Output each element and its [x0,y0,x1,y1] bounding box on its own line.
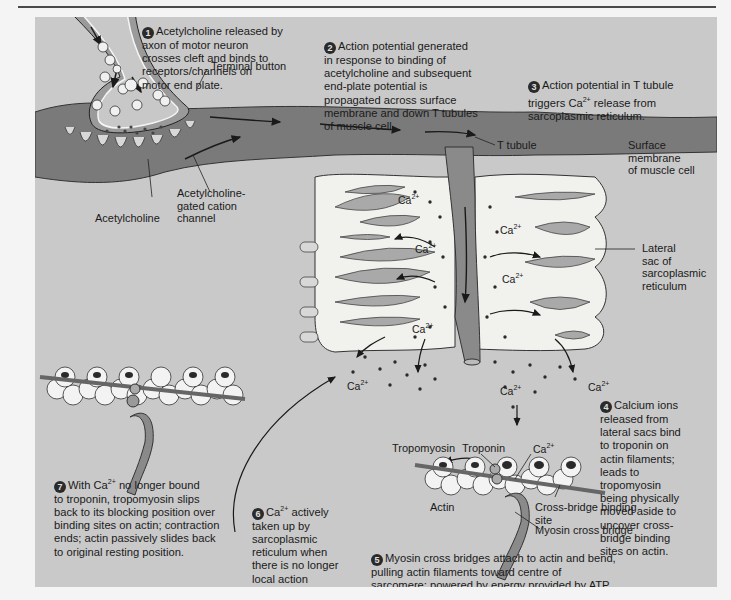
step-3-superscript: 2+ [583,96,591,103]
label-terminal-button: Terminal button [211,60,286,73]
label-tropomyosin: Tropomyosin [392,442,455,455]
step-5: 5Myosin cross bridges attach to actin an… [371,552,616,587]
calcium-label: Ca2+ [415,242,436,255]
calcium-label: Ca2+ [588,380,609,393]
step-7: 7With Ca2+ no longer bound to troponin, … [54,475,219,559]
step-7-superscript: 2+ [108,478,116,485]
label-troponin: Troponin [462,442,505,455]
step-2: 2Action potential generated in response … [324,40,478,133]
step-7-text-a: With Ca [68,479,108,491]
diagram-panel: 1Acetylcholine released by axon of motor… [35,17,717,587]
step-1-badge: 1 [142,27,154,39]
label-acetylcholine: Acetylcholine [95,212,160,225]
calcium-label: Ca2+ [502,272,523,285]
step-2-text: Action potential generated in response t… [324,40,478,132]
label-cross-bridge-site: Cross-bridge binding site [535,501,637,526]
step-2-badge: 2 [324,42,336,54]
label-lateral-sac: Lateral sac of sarcoplasmic reticulum [642,242,706,292]
calcium-label: Ca2+ [533,442,554,455]
label-surface-membrane: Surface membrane of muscle cell [628,139,717,177]
step-6-text-a: Ca [266,506,280,518]
label-actin: Actin [430,501,454,514]
step-4-badge: 4 [600,401,612,413]
step-7-badge: 7 [54,481,66,493]
step-6-text-b: actively taken up by sarcoplasmic reticu… [252,506,338,587]
label-myosin-cross-bridge: Myosin cross bridge [535,524,633,537]
step-5-text: Myosin cross bridges attach to actin and… [371,552,616,587]
step-3: 3Action potential in T tubule triggers C… [528,79,673,123]
calcium-label: Ca2+ [347,379,368,392]
top-rule [18,6,716,8]
step-1-text: Acetylcholine released by axon of motor … [142,25,283,91]
step-5-badge: 5 [371,554,383,566]
calcium-label: Ca2+ [500,223,521,236]
label-ach-gated-channel: Acetylcholine- gated cation channel [177,187,245,225]
sarcoplasmic-reticulum-right [475,174,606,350]
step-1: 1Acetylcholine released by axon of motor… [142,25,283,92]
label-t-tubule: T tubule [497,139,537,152]
calcium-label: Ca2+ [412,322,433,335]
calcium-label: Ca2+ [500,384,521,397]
step-6: 6Ca2+ actively taken up by sarcoplasmic … [252,502,338,587]
step-6-badge: 6 [252,508,264,520]
step-3-badge: 3 [528,81,540,93]
calcium-label: Ca2+ [398,193,419,206]
